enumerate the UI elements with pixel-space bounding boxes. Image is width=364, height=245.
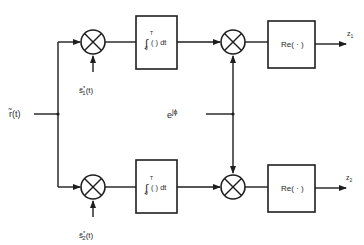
output-label: z1 — [347, 30, 354, 39]
real-part-label: Re( · ) — [281, 184, 304, 193]
output-label: z2 — [346, 174, 353, 183]
integral-upper-limit: T — [150, 175, 153, 181]
integral-upper-limit: T — [150, 30, 153, 36]
upper-branch: s̃*1(t) ∫ T 0 ( ) dt Re( · ) z1 — [79, 16, 354, 96]
integrator-body: ( ) dt — [151, 38, 167, 47]
reference-signal-label: s̃*2(t) — [79, 230, 94, 241]
block-diagram: r̃(t) s̃*1(t) ∫ T 0 ( ) dt Re( · ) — [0, 0, 364, 245]
lower-branch: s̃*2(t) ∫ T 0 ( ) dt Re( · ) z2 — [79, 160, 353, 241]
integrator-body: ( ) dt — [151, 183, 167, 192]
input-label: r̃(t) — [8, 108, 21, 119]
integral-lower-limit: 0 — [145, 45, 148, 51]
multiplier-icon — [221, 30, 245, 54]
integral-lower-limit: 0 — [145, 190, 148, 196]
phase-input-label: ejϕ — [167, 108, 178, 120]
reference-signal-label: s̃*1(t) — [79, 85, 94, 96]
multiplier-icon — [221, 175, 245, 199]
real-part-label: Re( · ) — [281, 40, 304, 49]
multiplier-icon — [81, 30, 105, 54]
multiplier-icon — [81, 175, 105, 199]
